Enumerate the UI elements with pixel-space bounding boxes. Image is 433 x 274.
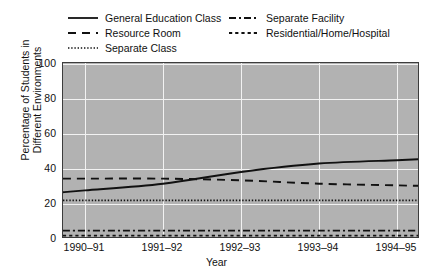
legend-line-sample-dash-dot bbox=[229, 12, 259, 24]
series-line bbox=[63, 159, 419, 192]
chart-legend: General Education Class Resource Room Se… bbox=[68, 11, 408, 59]
legend-line-sample-dotted bbox=[68, 42, 98, 54]
x-tick-label: 1990–91 bbox=[49, 241, 119, 253]
legend-line-sample-solid bbox=[68, 12, 98, 24]
x-axis-label: Year bbox=[0, 256, 433, 268]
legend-label: Separate Facility bbox=[266, 12, 344, 24]
legend-item-separate-class: Separate Class bbox=[68, 41, 177, 55]
legend-label: General Education Class bbox=[105, 12, 221, 24]
legend-label: Residential/Home/Hospital bbox=[266, 27, 390, 39]
legend-line-sample-short-dashed bbox=[229, 27, 259, 39]
y-axis-label-line1: Percentage of Students in bbox=[19, 40, 31, 161]
y-axis-label-line2: Different Environments bbox=[31, 7, 43, 193]
y-tick-label: 20 bbox=[22, 197, 56, 209]
legend-item-resource-room: Resource Room bbox=[68, 26, 181, 40]
legend-item-residential-home-hospital: Residential/Home/Hospital bbox=[229, 26, 390, 40]
series-lines bbox=[63, 63, 419, 238]
y-axis-label: Percentage of Students in Different Envi… bbox=[19, 7, 43, 193]
x-tick-label: 1991–92 bbox=[127, 241, 197, 253]
legend-item-general-education-class: General Education Class bbox=[68, 11, 221, 25]
plot-area bbox=[62, 62, 419, 238]
x-tick-label: 1993–94 bbox=[283, 241, 353, 253]
series-line bbox=[63, 179, 419, 186]
legend-line-sample-dashed bbox=[68, 27, 98, 39]
legend-label: Resource Room bbox=[105, 27, 181, 39]
x-tick-label: 1992–93 bbox=[205, 241, 275, 253]
legend-item-separate-facility: Separate Facility bbox=[229, 11, 344, 25]
legend-label: Separate Class bbox=[105, 42, 177, 54]
line-chart-figure: General Education Class Resource Room Se… bbox=[0, 0, 433, 274]
x-tick-label: 1994–95 bbox=[361, 241, 431, 253]
